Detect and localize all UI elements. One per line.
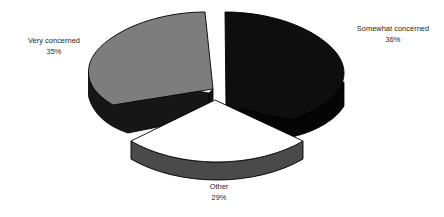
pie-label-very-concerned: Very concerned 35% [15,35,93,57]
pie-chart-figure: Very concerned 35% Somewhat concerned 36… [0,0,444,217]
pie-label-somewhat-concerned-name: Somewhat concerned [347,23,439,34]
pie-label-very-concerned-value: 35% [15,46,93,57]
pie-label-somewhat-concerned: Somewhat concerned 36% [347,23,439,45]
pie-label-other-value: 29% [186,192,252,203]
pie-label-other-name: Other [186,181,252,192]
pie-slice-very-concerned-top [89,12,214,105]
pie-label-very-concerned-name: Very concerned [15,35,93,46]
pie-label-somewhat-concerned-value: 36% [347,34,439,45]
pie-label-other: Other 29% [186,181,252,203]
